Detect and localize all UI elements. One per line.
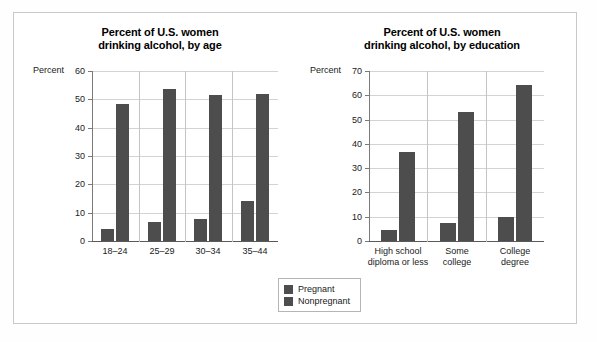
figure-canvas: Percent of U.S. women drinking alcohol, …	[0, 0, 597, 342]
chart-title-education: Percent of U.S. women drinking alcohol, …	[306, 26, 578, 52]
bar-age-3-0	[241, 201, 254, 241]
x-axis-tick-label: Somecollege	[443, 246, 472, 268]
chart-title-age-line2: drinking alcohol, by age	[14, 39, 306, 52]
y-axis-tick-label: 60	[352, 90, 362, 100]
y-axis-tick-label: 50	[352, 115, 362, 125]
y-axis-tick-label: 10	[75, 208, 85, 218]
bar-education-0-0	[381, 230, 397, 241]
legend-label-pregnant: Pregnant	[298, 284, 335, 294]
bar-education-2-0	[498, 217, 514, 241]
category-separator	[486, 71, 487, 242]
figure-frame: Percent of U.S. women drinking alcohol, …	[13, 12, 577, 324]
bar-age-0-0	[101, 229, 114, 241]
y-axis-caption-age: Percent	[33, 65, 64, 75]
plot-area-education: 010203040506070High schooldiploma or les…	[369, 71, 544, 242]
y-axis-tick-label: 30	[75, 151, 85, 161]
y-axis-tick-label: 30	[352, 163, 362, 173]
bar-age-3-1	[256, 94, 269, 241]
chart-title-age-line1: Percent of U.S. women	[14, 26, 306, 39]
x-axis-tick-label: 18–24	[102, 246, 127, 257]
chart-title-education-line2: drinking alcohol, by education	[306, 39, 578, 52]
chart-title-education-line1: Percent of U.S. women	[306, 26, 578, 39]
bar-age-2-0	[194, 219, 207, 241]
bar-age-0-1	[116, 104, 129, 241]
x-axis-tick-label: 30–34	[195, 246, 220, 257]
y-axis-line	[92, 71, 93, 242]
bar-education-2-1	[516, 85, 532, 241]
y-axis-tick-label: 10	[352, 212, 362, 222]
legend-label-nonpregnant: Nonpregnant	[298, 296, 350, 306]
y-axis-tick-label: 50	[75, 94, 85, 104]
category-separator	[427, 71, 428, 242]
bar-education-0-1	[399, 152, 415, 241]
legend-swatch-icon-pregnant	[284, 285, 293, 294]
bar-age-1-1	[163, 89, 176, 241]
bar-age-1-0	[148, 222, 161, 241]
x-axis-tick-label: 25–29	[149, 246, 174, 257]
category-separator	[139, 71, 140, 242]
y-axis-line	[369, 71, 370, 242]
chart-title-age: Percent of U.S. women drinking alcohol, …	[14, 26, 306, 52]
x-axis-tick-label: High schooldiploma or less	[368, 246, 429, 268]
chart-panel-age: Percent of U.S. women drinking alcohol, …	[14, 13, 306, 325]
y-axis-tick-label: 20	[75, 179, 85, 189]
bar-education-1-1	[458, 112, 474, 241]
y-axis-tick-label: 60	[75, 66, 85, 76]
series-legend: Pregnant Nonpregnant	[278, 278, 361, 312]
y-axis-tick-label: 20	[352, 187, 362, 197]
plot-area-age: 010203040506018–2425–2930–3435–44	[92, 71, 278, 242]
y-axis-tick-label: 70	[352, 66, 362, 76]
gridline	[369, 71, 544, 72]
bar-education-1-0	[440, 223, 456, 241]
y-axis-tick-label: 40	[75, 123, 85, 133]
y-axis-tick-label: 0	[357, 236, 362, 246]
x-axis-tick-label: 35–44	[242, 246, 267, 257]
category-separator	[232, 71, 233, 242]
legend-entry-pregnant: Pregnant	[284, 283, 354, 295]
x-axis-line	[369, 241, 544, 242]
legend-entry-nonpregnant: Nonpregnant	[284, 295, 354, 307]
y-axis-tick-label: 0	[80, 236, 85, 246]
legend-swatch-icon-nonpregnant	[284, 297, 293, 306]
x-axis-tick-label: Collegedegree	[500, 246, 531, 268]
category-separator	[185, 71, 186, 242]
y-axis-caption-education: Percent	[310, 65, 341, 75]
bar-age-2-1	[209, 95, 222, 241]
y-axis-tick-label: 40	[352, 139, 362, 149]
